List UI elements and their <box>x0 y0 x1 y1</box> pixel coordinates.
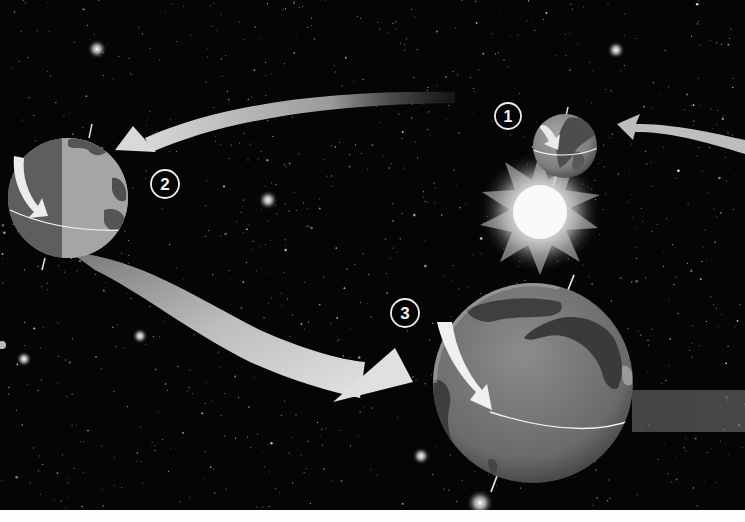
earth-position-3 <box>432 275 633 492</box>
arrow-3-outgoing <box>632 390 745 432</box>
bottom-margin <box>0 510 745 522</box>
starfield <box>1 0 745 508</box>
earth-position-2 <box>0 124 132 270</box>
orbit-diagram: 1 2 3 <box>0 0 745 510</box>
position-label-1: 1 <box>495 103 521 129</box>
space-scene: 1 2 3 <box>0 0 745 510</box>
position-label-3: 3 <box>391 299 419 327</box>
arrow-2-to-3 <box>70 252 413 402</box>
svg-text:1: 1 <box>504 108 513 125</box>
svg-text:2: 2 <box>160 175 169 194</box>
arrow-incoming-to-1 <box>617 114 745 154</box>
svg-text:3: 3 <box>400 304 409 323</box>
arrow-1-to-2 <box>115 92 455 152</box>
position-label-2: 2 <box>151 170 179 198</box>
